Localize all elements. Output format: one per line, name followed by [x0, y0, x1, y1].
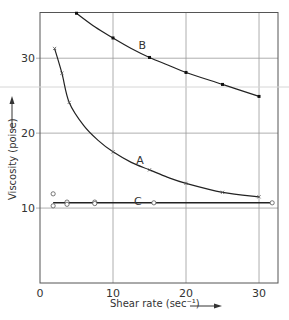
x-tick-label: 0: [37, 287, 44, 300]
dot-marker-icon: [112, 36, 115, 39]
curve-labels: ABC: [134, 39, 146, 207]
curve-a: [55, 48, 259, 196]
dot-marker-icon: [185, 71, 188, 74]
circle-marker-icon: [93, 201, 97, 205]
curve-label-c: C: [134, 195, 142, 208]
curve-label-a: A: [136, 154, 144, 167]
circle-marker-icon: [270, 201, 274, 205]
dot-marker-icon: [148, 56, 151, 59]
curves: [53, 13, 272, 203]
dot-marker-icon: [258, 95, 261, 98]
curve-label-b: B: [138, 39, 146, 52]
circle-marker-icon: [65, 202, 69, 206]
circle-marker-icon: [152, 201, 156, 205]
viscosity-chart: 0102030 102030 ABC Viscosity (poise) She…: [0, 0, 289, 320]
y-axis-ticks: 102030: [21, 52, 35, 215]
dot-marker-icon: [75, 12, 78, 15]
dot-marker-icon: [221, 83, 224, 86]
circle-marker-icon: [51, 192, 55, 196]
plot-frame: [40, 13, 278, 284]
y-tick-label: 10: [21, 202, 35, 215]
grid-lines: [36, 13, 278, 284]
data-markers: [51, 12, 274, 208]
y-tick-label: 20: [21, 127, 35, 140]
curve-b: [77, 13, 260, 96]
circle-marker-icon: [51, 204, 55, 208]
x-tick-label: 30: [252, 287, 266, 300]
y-axis-label: Viscosity (poise): [7, 118, 18, 200]
x-axis-label: Shear rate (sec⁻¹): [110, 298, 200, 309]
y-tick-label: 30: [21, 52, 35, 65]
